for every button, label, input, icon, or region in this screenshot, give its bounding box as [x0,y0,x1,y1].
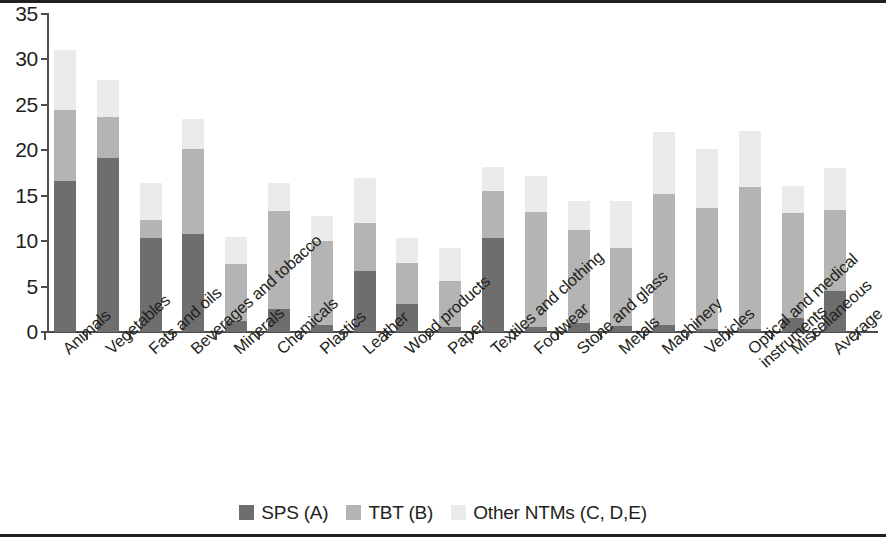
legend-label: Other NTMs (C, D,E) [473,503,647,522]
bar-segment-other-ntms-c-d-e- [739,131,761,186]
bar-segment-tbt-b- [396,263,418,304]
y-axis-tick [41,13,48,15]
legend-swatch-tbt [346,505,361,520]
bar-segment-other-ntms-c-d-e- [268,183,290,211]
stacked-bar-chart: 05101520253035 AnimalsVegetablesFats and… [0,0,886,537]
legend-label: SPS (A) [261,503,328,522]
bar-segment-other-ntms-c-d-e- [610,201,632,247]
bar-segment-other-ntms-c-d-e- [97,80,119,116]
y-axis-tick [41,104,48,106]
bar-segment-other-ntms-c-d-e- [225,237,247,264]
page-rule-top [0,0,886,3]
y-axis-tick-label: 0 [0,321,38,342]
bar-segment-other-ntms-c-d-e- [396,238,418,263]
bar-segment-other-ntms-c-d-e- [696,149,718,208]
bar-segment-tbt-b- [354,223,376,271]
legend-item-sps-a-[interactable]: SPS (A) [239,503,328,522]
y-axis-tick [41,149,48,151]
bar-segment-other-ntms-c-d-e- [54,50,76,110]
bar-segment-other-ntms-c-d-e- [354,178,376,223]
bar-animals [54,50,76,332]
y-axis-tick-label: 25 [0,94,38,115]
bar-textiles-and-clothing [482,167,504,332]
x-axis-tick [44,332,46,340]
bar-segment-tbt-b- [97,117,119,159]
legend-item-tbt-b-[interactable]: TBT (B) [346,503,433,522]
bar-segment-other-ntms-c-d-e- [525,176,547,212]
y-axis-tick [41,195,48,197]
y-axis-tick-label: 15 [0,185,38,206]
bar-segment-other-ntms-c-d-e- [482,167,504,192]
bar-machinery [653,132,675,332]
bar-segment-other-ntms-c-d-e- [824,168,846,210]
y-axis-tick-label: 10 [0,230,38,251]
bar-segment-tbt-b- [482,191,504,237]
y-axis-tick [41,286,48,288]
y-axis-tick-label: 20 [0,139,38,160]
plot-area [48,14,878,332]
bar-segment-tbt-b- [54,110,76,181]
y-axis-tick-label: 5 [0,276,38,297]
bar-segment-other-ntms-c-d-e- [782,186,804,213]
y-axis-tick-label: 30 [0,48,38,69]
y-axis-tick [41,240,48,242]
bar-segment-tbt-b- [182,149,204,233]
bar-segment-other-ntms-c-d-e- [182,119,204,149]
bar-segment-tbt-b- [653,194,675,325]
legend-label: TBT (B) [368,503,433,522]
legend-swatch-other [451,505,466,520]
bar-segment-tbt-b- [140,220,162,238]
y-axis-tick-label: 35 [0,3,38,24]
y-axis-tick [41,58,48,60]
bar-vegetables [97,80,119,332]
bar-segment-other-ntms-c-d-e- [568,201,590,230]
chart-legend: SPS (A)TBT (B)Other NTMs (C, D,E) [0,503,886,522]
bar-segment-other-ntms-c-d-e- [439,248,461,281]
bar-segment-other-ntms-c-d-e- [653,132,675,194]
bar-segment-sps-a- [54,181,76,332]
legend-item-other-ntms-c-d-e-[interactable]: Other NTMs (C, D,E) [451,503,647,522]
legend-swatch-sps [239,505,254,520]
bar-optical-and-medical-instruments [739,131,761,332]
bar-segment-other-ntms-c-d-e- [140,183,162,220]
